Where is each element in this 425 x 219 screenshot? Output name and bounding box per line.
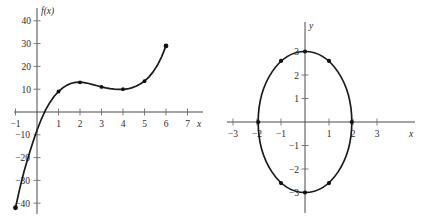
left-data-point	[78, 80, 82, 84]
right-data-point	[256, 120, 260, 124]
right-caption	[275, 211, 385, 219]
left-xtick-label-2: 2	[78, 119, 83, 129]
right-ellipse-plot: −3 −2 −1 1 2 3 1 2 3 −1 −2 −3 y x	[215, 0, 425, 219]
left-xtick-label-3: 3	[99, 119, 104, 129]
right-ytick-label-2: 2	[294, 71, 299, 81]
right-data-point	[327, 181, 331, 185]
left-xtick-label-5: 5	[142, 119, 147, 129]
right-ytick-label-1: 1	[294, 94, 299, 104]
left-cubic-plot: −1 1 2 3 4 5 6 7 10 20 30 40 −10 −20 −30…	[0, 0, 215, 219]
right-data-point	[303, 49, 307, 53]
left-data-point	[57, 90, 61, 94]
right-data-point	[327, 59, 331, 63]
left-plot-svg: −1 1 2 3 4 5 6 7 10 20 30 40 −10 −20 −30…	[0, 0, 215, 219]
left-ytick-label-neg10: −10	[15, 130, 30, 140]
right-data-point	[279, 181, 283, 185]
right-xtick-label-neg1: −1	[276, 129, 286, 139]
left-ytick-label-40: 40	[22, 16, 32, 26]
left-data-point	[143, 79, 147, 83]
left-xtick-label-6: 6	[164, 119, 169, 129]
left-ytick-label-10: 10	[22, 85, 32, 95]
right-y-axis-label: y	[308, 21, 314, 31]
left-ytick-label-20: 20	[22, 62, 32, 72]
right-data-point	[350, 120, 354, 124]
right-xtick-label-neg2: −2	[252, 129, 262, 139]
left-data-point	[121, 87, 125, 91]
right-data-point	[303, 190, 307, 194]
left-data-point	[13, 205, 18, 210]
left-x-axis-label: x	[196, 119, 202, 129]
right-ytick-label-neg1: −1	[289, 141, 299, 151]
left-xtick-label-0: −1	[10, 119, 20, 129]
left-ytick-label-30: 30	[22, 39, 32, 49]
left-xtick-label-1: 1	[56, 119, 61, 129]
right-xtick-label-3: 3	[375, 129, 380, 139]
right-ytick-label-neg2: −2	[289, 165, 299, 175]
right-x-axis-label: x	[408, 129, 414, 139]
right-plot-svg: −3 −2 −1 1 2 3 1 2 3 −1 −2 −3 y x	[215, 0, 425, 219]
left-data-point	[164, 43, 169, 48]
left-data-point	[100, 85, 104, 89]
left-caption	[60, 211, 170, 219]
figure-container: −1 1 2 3 4 5 6 7 10 20 30 40 −10 −20 −30…	[0, 0, 425, 219]
left-y-axis-label: f(x)	[41, 6, 54, 17]
right-data-point	[279, 59, 283, 63]
right-xtick-label-1: 1	[327, 129, 332, 139]
left-xtick-label-4: 4	[121, 119, 126, 129]
right-xtick-label-neg3: −3	[228, 129, 238, 139]
left-xtick-label-7: 7	[185, 119, 190, 129]
